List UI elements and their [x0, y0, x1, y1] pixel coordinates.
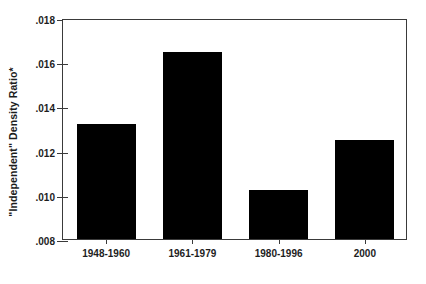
x-axis-tick [192, 239, 193, 244]
y-axis-title: "Independent" Density Ratio* [0, 0, 26, 284]
x-axis-tick-label: 1948-1960 [82, 248, 130, 259]
y-axis-tick-label: .018 [36, 15, 55, 26]
y-axis-tick-inner [63, 153, 68, 154]
y-axis-tick-inner [63, 197, 68, 198]
x-axis-tick [365, 239, 366, 244]
y-axis-tick [57, 20, 63, 21]
y-axis-tick-label: .012 [36, 147, 55, 158]
x-axis-tick-label: 2000 [354, 248, 376, 259]
bar [77, 124, 136, 239]
bar [249, 190, 308, 239]
y-axis-tick-label: .010 [36, 191, 55, 202]
plot-area: .018.016.014.012.010.0081948-19601961-19… [62, 19, 407, 240]
x-axis-tick [279, 239, 280, 244]
x-axis-tick-label: 1980-1996 [255, 248, 303, 259]
bar-chart-figure: "Independent" Density Ratio* .018.016.01… [0, 0, 426, 284]
y-axis-tick-label: .008 [36, 236, 55, 247]
bar [335, 140, 394, 239]
y-axis-tick-label: .014 [36, 103, 55, 114]
y-axis-tick-inner [63, 64, 68, 65]
y-axis-tick-inner [63, 241, 68, 242]
x-axis-tick-label: 1961-1979 [168, 248, 216, 259]
y-axis-tick-label: .016 [36, 59, 55, 70]
bar [163, 52, 222, 239]
x-axis-tick [106, 239, 107, 244]
y-axis-tick-inner [63, 108, 68, 109]
